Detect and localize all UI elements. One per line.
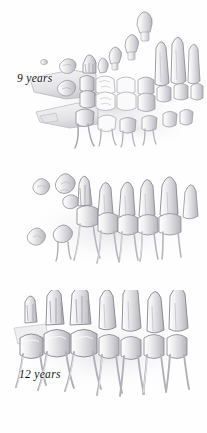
stage-panel-12-years: 12 years <box>0 160 207 290</box>
tooth-development-figure: 9 years <box>0 0 207 433</box>
developing-crowns-upper <box>83 12 152 73</box>
stage-label-12-years: 12 years <box>19 368 61 380</box>
stage-12-illustration <box>0 160 207 290</box>
stage-panel-9-years: 9 years <box>0 0 207 160</box>
anterior-teeth-right <box>155 37 203 102</box>
stage-21-illustration <box>0 290 207 433</box>
stage-label-9-years: 9 years <box>17 72 53 84</box>
stage-panel-21-years: 21 years <box>0 290 207 433</box>
